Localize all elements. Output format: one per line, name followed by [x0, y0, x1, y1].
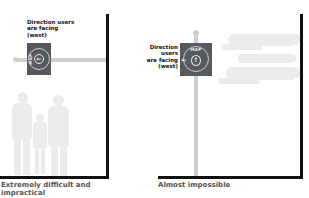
pole-end-cap: [193, 30, 199, 36]
caption-line: Extremely difficult and: [1, 181, 131, 189]
arrow-left-icon: ←: [35, 56, 43, 62]
person-head-icon: [288, 54, 296, 62]
direction-label-line: (west): [27, 32, 87, 38]
caption: Almost impossible: [158, 181, 298, 189]
person-head-icon: [292, 34, 300, 45]
person-leg-icon: [41, 148, 45, 174]
person-body-icon: [48, 106, 69, 146]
arrow-up-icon: ↑: [191, 57, 201, 63]
wall-floor: [158, 176, 303, 179]
direction-label: Direction users are facing (west): [140, 44, 178, 69]
arrow-left-icon: ←: [180, 57, 188, 63]
direction-label: Direction users are facing (west): [27, 19, 87, 38]
map-sign-rotated: MAP ←: [27, 43, 51, 75]
person-body-icon: [12, 103, 32, 139]
person-leg-icon: [218, 78, 260, 84]
map-sign-upright: MAP ↑ ←: [180, 43, 212, 76]
wall-vertical: [106, 14, 109, 179]
map-text: MAP: [29, 51, 33, 67]
person-leg-icon: [14, 139, 21, 175]
person-head-icon: [53, 95, 64, 106]
direction-label-line: (west): [140, 63, 178, 69]
person-body-icon: [238, 54, 292, 63]
person-head-icon: [36, 114, 44, 122]
person-leg-icon: [51, 146, 58, 176]
pole-end-cap: [13, 57, 18, 62]
person-head-icon: [291, 67, 300, 78]
person-body-icon: [33, 122, 47, 148]
person-leg-icon: [23, 139, 30, 175]
map-text: MAP: [188, 48, 204, 52]
person-leg-icon: [222, 44, 262, 50]
caption-line: impractical: [1, 189, 131, 197]
caption: Extremely difficult and impractical: [1, 181, 131, 197]
person-leg-icon: [35, 148, 39, 174]
wall-vertical: [300, 14, 303, 179]
person-leg-icon: [60, 146, 67, 176]
wall-floor: [0, 176, 109, 179]
person-head-icon: [18, 92, 28, 103]
